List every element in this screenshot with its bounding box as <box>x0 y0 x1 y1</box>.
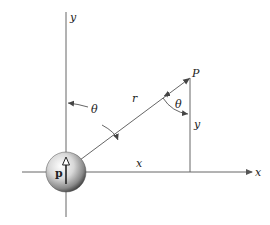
dipole-moment-label: p <box>55 167 63 180</box>
y-axis-label: y <box>69 11 77 24</box>
x-segment-label: x <box>136 157 143 170</box>
radius-label: r <box>132 92 138 105</box>
theta-point-label: θ <box>175 98 182 111</box>
radius-vector <box>80 78 190 160</box>
x-axis-arrow-icon <box>246 169 253 175</box>
point-p-label: P <box>191 67 200 80</box>
theta-origin-label: θ <box>91 103 98 116</box>
x-axis-label: x <box>255 166 262 179</box>
theta-arc-origin-left <box>68 103 88 107</box>
y-segment-label: y <box>193 118 201 131</box>
dipole-diagram: y x P r θ θ y x p <box>0 0 270 225</box>
